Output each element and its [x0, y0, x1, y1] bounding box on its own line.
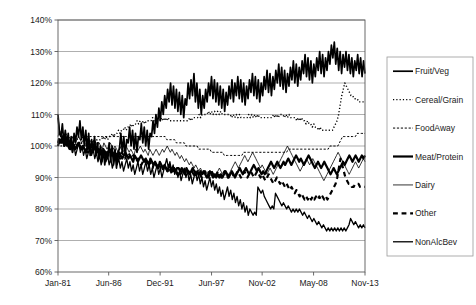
x-tick-label: Nov-13 — [351, 278, 379, 288]
y-tick-label: 120% — [30, 78, 52, 88]
x-tick-label: Jan-81 — [45, 278, 71, 288]
y-tick-label: 130% — [30, 47, 52, 57]
legend-label-dairy: Dairy — [415, 180, 436, 190]
x-tick-label: May-08 — [299, 278, 328, 288]
price-index-line-chart: 60%70%80%90%100%110%120%130%140% Jan-81J… — [0, 0, 476, 305]
y-tick-label: 90% — [35, 173, 52, 183]
y-tick-label: 110% — [31, 110, 53, 120]
y-tick-label: 60% — [35, 267, 52, 277]
x-tick-label: Nov-02 — [248, 278, 276, 288]
legend-label-meat-protein: Meat/Protein — [415, 152, 463, 162]
y-tick-label: 140% — [30, 15, 52, 25]
x-tick-label: Jun-86 — [96, 278, 122, 288]
y-tick-label: 80% — [35, 204, 52, 214]
x-tick-label: Jun-97 — [199, 278, 225, 288]
legend-label-cereal-grain: Cereal/Grain — [415, 95, 463, 105]
y-tick-label: 70% — [35, 236, 52, 246]
legend-label-foodaway: FoodAway — [415, 123, 456, 133]
y-tick-label: 100% — [30, 141, 52, 151]
chart-container: 60%70%80%90%100%110%120%130%140% Jan-81J… — [0, 0, 476, 305]
legend-label-fruit-veg: Fruit/Veg — [415, 66, 449, 76]
chart-legend: Fruit/VegCereal/GrainFoodAwayMeat/Protei… — [387, 57, 473, 256]
legend-label-other: Other — [415, 208, 436, 218]
x-tick-label: Dec-91 — [146, 278, 174, 288]
legend-label-nonalcbev: NonAlcBev — [415, 237, 458, 247]
